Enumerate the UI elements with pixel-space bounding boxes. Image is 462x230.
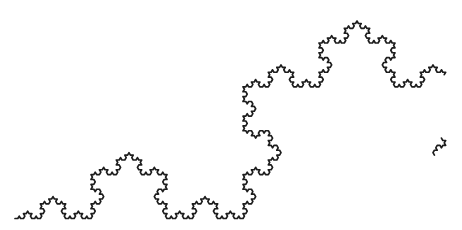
koch-curve-svg (0, 0, 462, 230)
background (0, 0, 462, 230)
fractal-figure (0, 0, 462, 230)
